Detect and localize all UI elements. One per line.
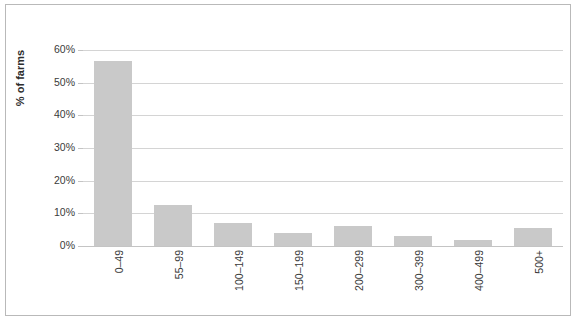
x-axis-tick-label: 400–499 [473,250,485,291]
x-axis-tick-label-slot: 400–499 [443,248,503,308]
plot-area [83,50,563,246]
bar [214,223,252,246]
bar [94,61,132,246]
y-axis-tick-label: 60% [35,44,75,55]
y-axis-tick-label: 50% [35,77,75,88]
chart-container: % of farms 0%10%20%30%40%50%60% 0–4955–9… [0,0,577,322]
gridline [83,246,563,247]
y-axis-tick-labels: 0%10%20%30%40%50%60% [33,50,75,246]
x-axis-tick-label: 300–399 [413,250,425,291]
gridline [83,181,563,182]
x-axis-tick-label-slot: 200–299 [323,248,383,308]
bar [454,240,492,246]
y-axis-tick-label: 20% [35,175,75,186]
x-axis-tick-label-slot: 300–399 [383,248,443,308]
x-axis-tick-label-slot: 100–149 [203,248,263,308]
bar [334,226,372,246]
bar [274,233,312,246]
x-axis-tick-label: 100–149 [233,250,245,291]
x-axis-tick-label-slot: 500+ [503,248,563,308]
x-axis-tick-label: 0–49 [113,250,125,273]
gridline [83,148,563,149]
x-axis-tick-label-slot: 150–199 [263,248,323,308]
gridline [83,115,563,116]
y-axis-tick-label: 30% [35,142,75,153]
x-axis-tick-labels: 0–4955–99100–149150–199200–299300–399400… [83,248,563,308]
y-axis-tick-label: 40% [35,109,75,120]
x-axis-tick-label: 55–99 [173,250,185,279]
y-axis-tick-label: 0% [35,240,75,251]
gridline [83,83,563,84]
x-axis-tick-label-slot: 0–49 [83,248,143,308]
gridline [83,50,563,51]
bar [514,228,552,246]
x-axis-tick-label: 200–299 [353,250,365,291]
bar [394,236,432,246]
x-axis-tick-label-slot: 55–99 [143,248,203,308]
x-axis-tick-label: 150–199 [293,250,305,291]
y-axis-tick-label: 10% [35,207,75,218]
bar [154,205,192,246]
x-axis-tick-label: 500+ [533,250,545,274]
y-axis-title: % of farms [14,28,34,128]
